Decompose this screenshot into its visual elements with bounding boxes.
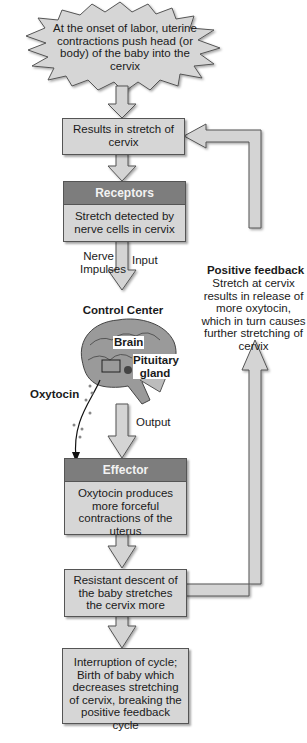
effector-header: Effector: [65, 459, 186, 482]
response-box: Resistant descent of the baby stretches …: [64, 569, 187, 617]
input-label: Input: [132, 254, 158, 267]
effector-box: Effector Oxytocin produces more forceful…: [64, 458, 187, 535]
arrow-down-2: [108, 154, 136, 181]
end-box: Interruption of cycle; Birth of baby whi…: [62, 648, 189, 724]
arrow-down-3: [108, 534, 136, 568]
start-event-text: At the onset of labor, uterine contracti…: [48, 22, 202, 72]
end-text: Interruption of cycle; Birth of baby whi…: [63, 649, 188, 731]
feedback-arrow-return: [184, 124, 261, 228]
receptors-header: Receptors: [64, 182, 185, 205]
feedback-title: Positive feedback: [204, 264, 307, 277]
response-text: Resistant descent of the baby stretches …: [65, 570, 186, 612]
effector-text: Oxytocin produces more forceful contract…: [65, 482, 186, 537]
stimulus-text: Results in stretch of cervix: [63, 119, 184, 148]
brain-label: Brain: [113, 336, 144, 349]
feedback-text: Stretch at cervix results in release of …: [200, 277, 307, 352]
stimulus-box: Results in stretch of cervix: [62, 118, 185, 155]
receptors-box: Receptors Stretch detected by nerve cell…: [63, 181, 186, 242]
output-arrow: [108, 404, 136, 458]
nerve-impulses-label: Nerve Impulses: [80, 250, 114, 275]
pituitary-gland-label: Pituitary gland: [133, 354, 177, 379]
arrow-down-4: [108, 616, 136, 648]
feedback-arrow-up: [186, 340, 268, 596]
arrow-down-1: [108, 86, 136, 118]
control-center-label: Control Center: [78, 304, 168, 317]
oxytocin-label: Oxytocin: [30, 388, 79, 401]
output-label: Output: [136, 416, 171, 429]
receptors-text: Stretch detected by nerve cells in cervi…: [64, 205, 185, 235]
